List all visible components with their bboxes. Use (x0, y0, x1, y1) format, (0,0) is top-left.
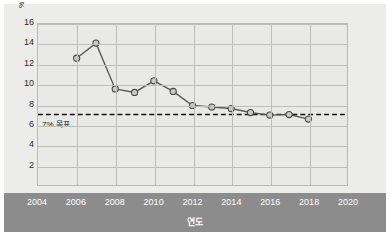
x-axis-tick-label: 2020 (328, 198, 368, 207)
gridline-vertical (232, 24, 233, 185)
data-point-marker (151, 78, 157, 84)
gridline-horizontal (38, 126, 347, 127)
target-line-label: 7% 목표 (41, 118, 71, 129)
y-axis-unit-label: % (18, 2, 25, 8)
gridline-vertical (77, 24, 78, 185)
x-axis-tick-label: 2006 (56, 198, 96, 207)
gridline-horizontal (38, 106, 347, 107)
y-axis-tick-label: 14 (4, 38, 34, 47)
x-axis-tick-label: 2014 (211, 198, 251, 207)
x-axis-tick-label: 2008 (95, 198, 135, 207)
gridline-horizontal (38, 24, 347, 25)
gridline-vertical (116, 24, 117, 185)
x-axis-tick-label: 2012 (173, 198, 213, 207)
data-point-marker (131, 89, 137, 95)
data-point-marker (286, 112, 292, 118)
y-axis-tick-label: 10 (4, 79, 34, 88)
gridline-vertical (310, 24, 311, 185)
data-series-line (38, 24, 347, 185)
y-axis-tick-label: 12 (4, 59, 34, 68)
chart-figure: % 246810121416 7% 목표 연도 2004200620082010… (0, 0, 390, 247)
data-point-marker (170, 88, 176, 94)
gridline-horizontal (38, 146, 347, 147)
gridline-vertical (155, 24, 156, 185)
x-axis-title: 연도 (4, 215, 386, 228)
x-axis-band: 연도 200420062008201020122014201620182020 (4, 193, 386, 232)
gridline-vertical (271, 24, 272, 185)
gridline-horizontal (38, 85, 347, 86)
y-axis-tick-labels: 246810121416 (0, 23, 34, 186)
gridline-vertical (194, 24, 195, 185)
gridline-horizontal (38, 44, 347, 45)
gridline-horizontal (38, 167, 347, 168)
y-axis-tick-label: 2 (4, 161, 34, 170)
x-axis-tick-label: 2010 (134, 198, 174, 207)
y-axis-tick-label: 8 (4, 100, 34, 109)
y-axis-tick-label: 4 (4, 140, 34, 149)
x-axis-tick-label: 2018 (289, 198, 329, 207)
y-axis-tick-label: 6 (4, 120, 34, 129)
gridline-horizontal (38, 65, 347, 66)
y-axis-tick-label: 16 (4, 18, 34, 27)
x-axis-tick-label: 2016 (250, 198, 290, 207)
data-point-marker (209, 104, 215, 110)
data-point-marker (247, 109, 253, 115)
plot-area: 7% 목표 (37, 23, 348, 186)
x-axis-tick-label: 2004 (17, 198, 57, 207)
